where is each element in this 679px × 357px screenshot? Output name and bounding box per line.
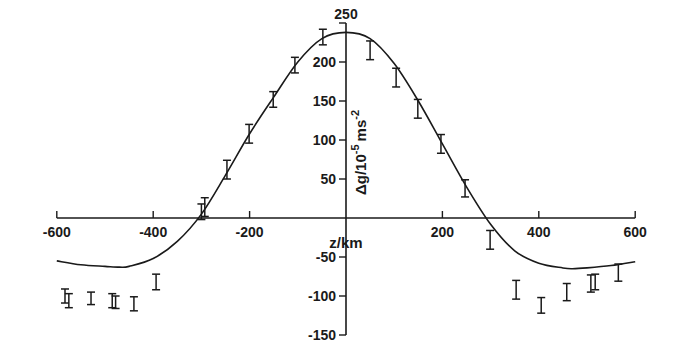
y-tick-label: 150	[313, 93, 337, 109]
error-bar	[130, 297, 138, 311]
error-bar	[152, 274, 160, 290]
error-bar	[614, 264, 622, 281]
y-tick-label: -50	[316, 249, 336, 265]
x-tick-label: -400	[139, 224, 167, 240]
x-tick-label: 600	[624, 224, 648, 240]
error-bar	[87, 292, 95, 304]
error-bar	[61, 289, 69, 303]
svg-text:Δg/10-5ms-2: Δg/10-5ms-2	[349, 110, 369, 195]
y-tick-label: -100	[308, 288, 336, 304]
error-bar	[414, 99, 422, 118]
error-bar	[366, 41, 374, 60]
y-axis-label: Δg/10-5ms-2	[349, 110, 369, 195]
error-bar	[486, 230, 494, 249]
error-bar	[563, 284, 571, 301]
y-tick-label: 200	[313, 54, 337, 70]
x-tick-label: -600	[43, 224, 71, 240]
data-points	[61, 29, 622, 313]
x-tick-label: 400	[527, 224, 551, 240]
error-bar	[512, 280, 520, 299]
x-axis-label: z/km	[329, 234, 362, 251]
y-tick-label: 250	[334, 6, 358, 22]
y-tick-label: 50	[320, 171, 336, 187]
error-bar	[537, 298, 545, 314]
error-bar	[65, 294, 73, 308]
x-tick-label: 200	[431, 224, 455, 240]
gravity-anomaly-chart: -600-400-20020040060025020015010050-50-1…	[0, 0, 679, 357]
axes: -600-400-20020040060025020015010050-50-1…	[43, 6, 647, 343]
y-tick-label: 100	[313, 132, 337, 148]
x-tick-label: -200	[236, 224, 264, 240]
error-bar	[591, 274, 599, 290]
y-tick-label: -150	[308, 327, 336, 343]
